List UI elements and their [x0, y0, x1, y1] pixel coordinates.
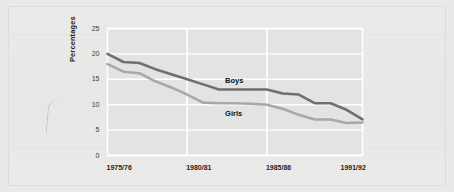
series-label-girls: Girls — [225, 109, 242, 118]
plot-background-group — [108, 29, 363, 156]
chart-figure: Percentages 0 5 10 15 20 25 1975/76 1980… — [0, 0, 454, 192]
plot-background — [108, 29, 363, 156]
chart-plot-area: Percentages 0 5 10 15 20 25 1975/76 1980… — [0, 0, 454, 192]
series-label-boys: Boys — [225, 76, 243, 85]
chart-canvas — [0, 0, 454, 192]
